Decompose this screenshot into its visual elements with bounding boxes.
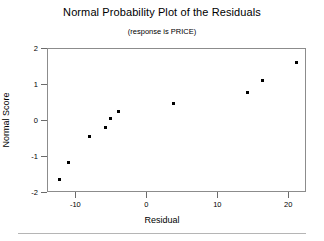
x-axis-label: Residual — [0, 215, 324, 225]
x-axis-tick — [146, 192, 147, 198]
y-axis-label: Normal Score — [1, 92, 11, 147]
normal-probability-plot-figure: Normal Probability Plot of the Residuals… — [0, 0, 324, 241]
x-axis-tick — [288, 192, 289, 198]
y-axis-tick — [41, 120, 47, 121]
chart-title: Normal Probability Plot of the Residuals — [0, 6, 324, 18]
data-point — [109, 117, 112, 120]
y-axis-tick-label: 0 — [34, 116, 38, 125]
data-point — [261, 79, 264, 82]
data-point — [104, 126, 107, 129]
y-axis-tick-label: -1 — [31, 152, 38, 161]
data-point — [67, 161, 70, 164]
y-axis-tick — [41, 156, 47, 157]
y-axis-tick-label: -2 — [31, 188, 38, 197]
y-axis-tick — [41, 192, 47, 193]
x-axis-tick-label: 0 — [144, 200, 148, 209]
data-point — [246, 91, 249, 94]
x-axis-tick — [217, 192, 218, 198]
y-axis-tick-label: 2 — [34, 44, 38, 53]
x-axis-tick-label: 20 — [284, 200, 292, 209]
data-point — [88, 135, 91, 138]
x-axis-tick-label: -10 — [70, 200, 81, 209]
data-point — [172, 102, 175, 105]
y-axis-tick — [41, 48, 47, 49]
y-axis-tick — [41, 84, 47, 85]
data-point — [295, 61, 298, 64]
plot-area — [47, 48, 306, 192]
x-axis-tick-label: 10 — [213, 200, 221, 209]
y-axis-tick-label: 1 — [34, 80, 38, 89]
data-point — [58, 178, 61, 181]
chart-subtitle: (response is PRICE) — [0, 27, 324, 36]
x-axis-tick — [75, 192, 76, 198]
data-point — [117, 110, 120, 113]
bottom-divider — [18, 233, 306, 234]
